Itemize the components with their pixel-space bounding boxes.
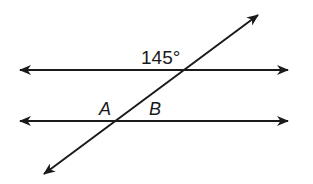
angle-label-b: B [149, 99, 161, 119]
diagram-canvas: 145° A B [0, 0, 313, 184]
angle-label-145: 145° [141, 47, 180, 68]
transversal-line [44, 15, 258, 174]
angle-label-a: A [98, 99, 111, 119]
